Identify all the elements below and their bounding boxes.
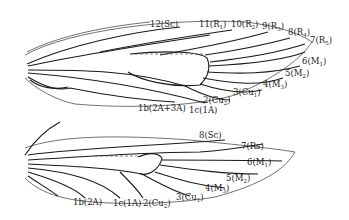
- hindwing-upper-curve: [25, 122, 60, 155]
- label-hw-8-sc: 8(Sc): [199, 130, 222, 140]
- label-fw-4-m3: 4(M3): [263, 79, 287, 90]
- hindwing-vein-cu: [28, 164, 142, 174]
- label-fw-1b-2a3a: 1b(2A+3A): [138, 103, 186, 113]
- hindwing-labels: 8(Sc) 7(Rs) 6(M1) 5(M2) 4(M3) 3(Cu1) 2(C…: [73, 130, 271, 209]
- forewing-vein-sc: [27, 27, 180, 64]
- wing-venation-diagram: 12(Sc) 11(R1) 10(R2) 9(R3) 8(R4) 7(R5) 6…: [0, 0, 349, 220]
- label-hw-6-m1: 6(M1): [247, 157, 271, 168]
- hindwing-vein-1a: [28, 168, 120, 198]
- label-hw-7-rs: 7(Rs): [241, 141, 264, 151]
- label-hw-1b-2a: 1b(2A): [73, 197, 102, 207]
- hindwing-discal-cell: [138, 154, 162, 175]
- forewing-vein-r3: [205, 38, 290, 55]
- forewing: [25, 21, 312, 106]
- label-fw-1c-1a: 1c(1A): [189, 105, 217, 115]
- forewing-discal-cell: [128, 52, 209, 86]
- forewing-labels: 12(Sc) 11(R1) 10(R2) 9(R3) 8(R4) 7(R5) 6…: [138, 19, 332, 115]
- label-fw-11-r1: 11(R1): [199, 19, 226, 30]
- label-fw-9-r3: 9(R3): [262, 21, 284, 32]
- hindwing-vein-rs: [28, 144, 263, 160]
- label-fw-3-cu1: 3(Cu1): [233, 87, 261, 98]
- label-hw-1c-1a: 1c(1A): [113, 198, 141, 208]
- label-fw-8-r4: 8(R4): [288, 27, 310, 38]
- forewing-vein-r4: [210, 44, 305, 62]
- label-fw-5-m2: 5(M2): [285, 68, 309, 79]
- forewing-vein-2a3a: [28, 77, 175, 102]
- hindwing-vein-sc: [28, 140, 225, 155]
- label-fw-7-r5: 7(R5): [310, 35, 332, 46]
- hindwing-vein-3a: [28, 176, 58, 196]
- forewing-vein-r1: [100, 30, 232, 52]
- label-hw-3-cu1: 3(Cu1): [176, 192, 204, 203]
- label-fw-10-r2: 10(R2): [231, 19, 258, 30]
- label-hw-2-cu2: 2(Cu2): [143, 198, 171, 209]
- label-hw-4-m3: 4(M3): [205, 183, 229, 194]
- label-hw-5-m2: 5(M2): [226, 173, 250, 184]
- label-fw-6-m1: 6(M1): [302, 56, 326, 67]
- hindwing-vein-cu2: [120, 172, 143, 198]
- label-fw-12-sc: 12(Sc): [150, 19, 178, 29]
